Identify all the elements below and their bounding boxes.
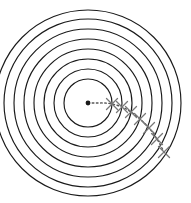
center-point-marker <box>86 101 91 106</box>
concentric-circles-diagram <box>0 0 191 203</box>
figure-container <box>0 0 191 203</box>
